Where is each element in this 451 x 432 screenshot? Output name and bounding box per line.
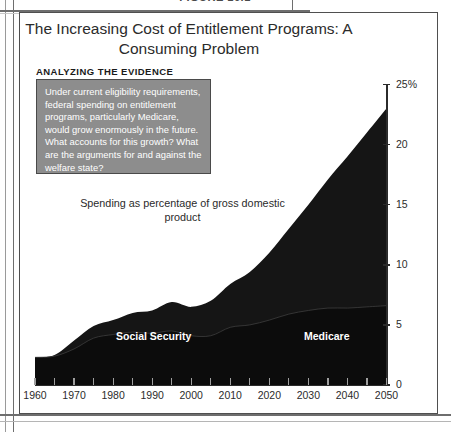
x-tick-label: 2010 (210, 389, 250, 401)
x-tick (54, 378, 55, 385)
y-tick (383, 264, 390, 266)
footer-rule (0, 414, 451, 416)
figure-caption: FIGURE 16.1 (140, 0, 290, 3)
x-tick (327, 378, 328, 385)
y-tick-label: 10 (396, 259, 408, 269)
y-tick-label: 20 (396, 139, 408, 149)
x-tick (93, 378, 94, 385)
x-tick (269, 378, 270, 385)
analyzing-the-evidence-label: ANALYZING THE EVIDENCE (36, 66, 173, 77)
x-tick (73, 378, 74, 385)
page-edge-left-rule-2 (13, 0, 14, 432)
y-tick-label: 25% (396, 79, 417, 89)
x-tick-label: 1960 (15, 389, 55, 401)
chart-title: The Increasing Cost of Entitlement Progr… (24, 19, 354, 59)
x-tick (249, 378, 250, 385)
callout-text: Under current eligibility requirements, … (45, 86, 202, 174)
analyzing-the-evidence-callout: Under current eligibility requirements, … (36, 79, 211, 174)
x-tick (171, 378, 172, 385)
x-tick (113, 378, 114, 385)
y-tick-label: 5 (396, 319, 402, 329)
x-tick-label: 2000 (171, 389, 211, 401)
x-tick-label: 1970 (54, 389, 94, 401)
x-tick (34, 378, 35, 385)
x-tick-label: 1980 (93, 389, 133, 401)
footer-rule-shadow (0, 421, 451, 422)
x-tick (132, 378, 133, 385)
x-tick-label: 1990 (132, 389, 172, 401)
y-tick-label: 15 (396, 199, 408, 209)
x-tick-label: 2020 (249, 389, 289, 401)
x-tick (288, 378, 289, 385)
x-tick-label: 2030 (288, 389, 328, 401)
gdp-note: Spending as percentage of gross domestic… (80, 196, 285, 224)
x-tick (152, 378, 153, 385)
y-tick (383, 204, 390, 206)
y-axis-line (386, 84, 388, 386)
x-tick (366, 378, 367, 385)
x-tick (191, 378, 192, 385)
x-tick (230, 378, 231, 385)
y-tick (383, 324, 390, 326)
page-edge-left-rule (5, 0, 6, 432)
x-tick (347, 378, 348, 385)
y-tick (383, 84, 390, 86)
series-label-social-security: Social Security (116, 330, 191, 342)
y-tick (383, 144, 390, 146)
x-tick (308, 378, 309, 385)
x-tick-label: 2050 (367, 389, 407, 401)
x-tick-label: 2040 (327, 389, 367, 401)
x-tick (386, 378, 387, 385)
y-tick-label: 0 (396, 379, 402, 389)
x-tick (210, 378, 211, 385)
series-label-medicare: Medicare (304, 330, 350, 342)
